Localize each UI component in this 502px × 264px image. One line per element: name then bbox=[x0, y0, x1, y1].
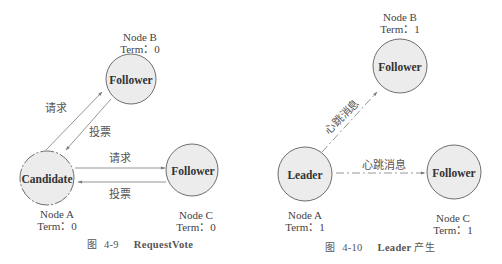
caption-title: RequestVote bbox=[134, 239, 194, 250]
caption-prefix: 图 bbox=[325, 242, 335, 253]
node-c-name-fig49: Node C bbox=[179, 209, 213, 221]
caption-title: Leader bbox=[378, 242, 412, 253]
caption-suffix: 产生 bbox=[414, 242, 435, 253]
node-c-term-fig410: Term：1 bbox=[433, 224, 473, 236]
node-b-name-fig49: Node B bbox=[123, 31, 157, 43]
node-c-role-fig410: Follower bbox=[432, 167, 475, 179]
node-b-name-fig410: Node B bbox=[383, 11, 417, 23]
node-a-name-fig410: Node A bbox=[288, 209, 322, 221]
node-a-term-fig410: Term：1 bbox=[285, 221, 325, 233]
caption-fig49: 图 4-9 RequestVote bbox=[87, 236, 194, 251]
node-b-role-fig49: Follower bbox=[109, 74, 152, 86]
node-c-term-fig49: Term：0 bbox=[176, 221, 216, 233]
caption-prefix: 图 bbox=[87, 239, 97, 250]
node-a-name-fig49: Node A bbox=[40, 208, 74, 220]
node-b-role-fig410: Follower bbox=[378, 61, 421, 73]
node-a-term-fig49: Term：0 bbox=[37, 220, 77, 232]
node-b-term-fig410: Term：1 bbox=[380, 23, 420, 35]
edge-label-heartbeat-horiz: 心跳消息 bbox=[362, 156, 406, 172]
node-c-name-fig410: Node C bbox=[436, 212, 470, 224]
edge-label-request-diag: 请求 bbox=[45, 99, 67, 115]
node-a-role-fig410: Leader bbox=[287, 169, 322, 181]
node-c-role-fig49: Follower bbox=[171, 165, 214, 177]
node-b-term-fig49: Term：0 bbox=[120, 43, 160, 55]
caption-number: 4-10 bbox=[342, 242, 362, 253]
node-a-role-fig49: Candidate bbox=[21, 173, 72, 185]
edge-label-vote-horiz: 投票 bbox=[109, 185, 131, 201]
caption-fig410: 图 4-10 Leader 产生 bbox=[325, 239, 435, 254]
edge-label-vote-diag: 投票 bbox=[89, 123, 111, 139]
edge-label-request-horiz: 请求 bbox=[109, 149, 131, 165]
caption-number: 4-9 bbox=[104, 239, 119, 250]
